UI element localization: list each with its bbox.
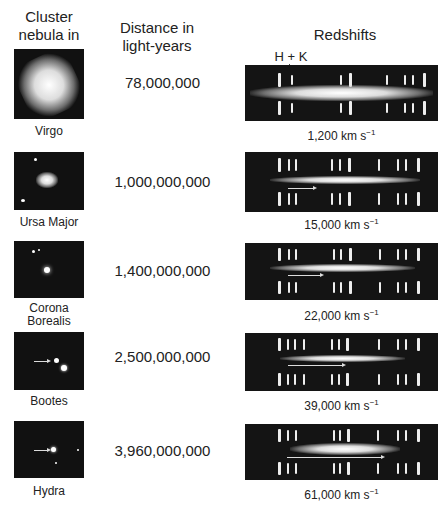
distance-value: 3,960,000,000 xyxy=(100,442,225,459)
distance-value: 2,500,000,000 xyxy=(100,348,225,365)
galaxy-label: CoronaBorealis xyxy=(0,302,98,328)
galaxy-label: Virgo xyxy=(0,125,98,138)
velocity-value: 15,000 km s−1 xyxy=(245,217,438,232)
spectrum-corona-borealis xyxy=(245,243,438,300)
galaxy-image-corona-borealis xyxy=(14,241,84,298)
spectrum-hydra xyxy=(245,424,438,480)
spectrum-bootes xyxy=(245,333,438,391)
spectrum-virgo xyxy=(245,65,438,121)
velocity-value: 22,000 km s−1 xyxy=(245,308,438,323)
header-distance: Distance in light-years xyxy=(102,19,212,55)
galaxy-image-hydra xyxy=(14,421,84,478)
header-redshifts: Redshifts xyxy=(290,26,400,44)
galaxy-image-bootes xyxy=(14,332,84,390)
galaxy-label: Ursa Major xyxy=(0,216,98,229)
velocity-value: 39,000 km s−1 xyxy=(245,398,438,413)
galaxy-image-ursa-major xyxy=(14,152,84,210)
hk-label: H + K xyxy=(266,48,316,66)
distance-value: 1,400,000,000 xyxy=(100,262,225,279)
galaxy-label: Bootes xyxy=(0,395,98,408)
distance-value: 78,000,000 xyxy=(100,74,225,91)
galaxy-image-virgo xyxy=(14,49,84,119)
galaxy-label: Hydra xyxy=(0,485,98,498)
distance-value: 1,000,000,000 xyxy=(100,173,225,190)
velocity-value: 1,200 km s−1 xyxy=(245,128,438,143)
velocity-value: 61,000 km s−1 xyxy=(245,487,438,502)
header-cluster: Cluster nebula in xyxy=(8,8,90,44)
spectrum-ursa-major xyxy=(245,152,438,212)
